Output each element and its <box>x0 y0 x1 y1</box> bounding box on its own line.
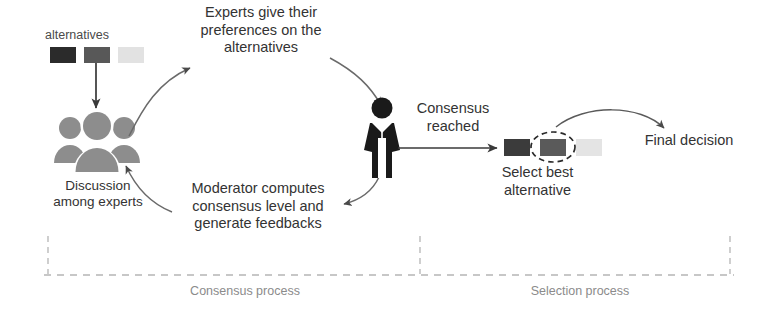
arrow-to-final-decision <box>556 110 664 128</box>
selection-swatch-group <box>504 132 602 162</box>
group-of-people-icon <box>54 110 140 175</box>
moderator-person-icon <box>364 98 400 179</box>
label-final-decision: Final decision <box>624 132 754 150</box>
label-selection-process: Selection process <box>500 284 660 299</box>
label-alternatives: alternatives <box>22 28 132 43</box>
selection-swatch-3 <box>576 139 602 156</box>
consensus-process-diagram: alternatives Experts give their preferen… <box>0 0 770 315</box>
label-experts-give-preferences: Experts give their preferences on the al… <box>168 4 354 57</box>
alternative-swatch-2 <box>84 47 110 63</box>
selection-swatch-2-selected <box>540 139 566 156</box>
label-discussion-among-experts: Discussion among experts <box>38 178 158 211</box>
arrow-preferences-to-moderator <box>330 58 381 105</box>
alternative-swatch-3 <box>118 47 144 63</box>
label-consensus-process: Consensus process <box>165 284 325 299</box>
label-moderator-computes-consensus: Moderator computes consensus level and g… <box>158 180 358 233</box>
label-consensus-reached: Consensus reached <box>398 100 508 135</box>
alternatives-swatch-group <box>50 47 144 63</box>
alternative-swatch-1 <box>50 47 76 63</box>
arrow-experts-to-preferences <box>129 68 190 136</box>
label-select-best-alternative: Select best alternative <box>470 164 605 199</box>
selection-swatch-1 <box>504 139 530 156</box>
diagram-vector-layer <box>0 0 770 315</box>
